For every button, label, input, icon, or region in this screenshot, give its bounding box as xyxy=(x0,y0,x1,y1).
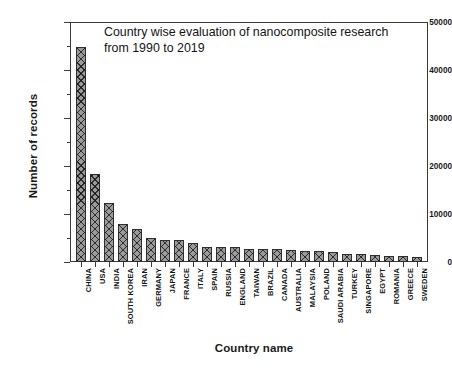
bar xyxy=(132,229,142,262)
x-tick-major xyxy=(319,262,320,267)
bar xyxy=(188,243,198,262)
x-tick-major xyxy=(277,262,278,267)
x-tick-label: AUSTRALIA xyxy=(294,268,303,312)
y-tick-minor xyxy=(67,142,71,143)
y-tick-label: 30000 xyxy=(396,114,452,123)
bar xyxy=(258,249,268,262)
bar xyxy=(118,224,128,262)
y-tick-minor xyxy=(67,94,71,95)
bar xyxy=(216,247,226,262)
bar-chart: Number of records Country wise evaluatio… xyxy=(0,0,452,375)
bar xyxy=(356,254,366,262)
x-tick-label: RUSSIA xyxy=(224,268,233,297)
bar xyxy=(76,47,86,262)
x-tick-label: POLAND xyxy=(322,268,331,300)
x-tick-label: BRAZIL xyxy=(266,268,275,296)
x-tick-major xyxy=(109,262,110,267)
x-tick-label: FRANCE xyxy=(182,268,191,300)
x-tick-label: GREECE xyxy=(406,268,415,300)
x-tick-label: SPAIN xyxy=(210,268,219,291)
bar xyxy=(412,257,422,262)
x-tick-major xyxy=(165,262,166,267)
y-tick-major xyxy=(64,166,70,167)
x-tick-label: SWEDEN xyxy=(420,268,429,301)
x-tick-label: JAPAN xyxy=(168,268,177,293)
x-tick-label: USA xyxy=(98,268,107,284)
x-tick-label: CHINA xyxy=(84,268,93,292)
y-tick-label: 40000 xyxy=(396,66,452,75)
x-tick-major xyxy=(249,262,250,267)
bar xyxy=(384,256,394,262)
bar xyxy=(272,249,282,262)
x-tick-major xyxy=(389,262,390,267)
x-tick-label: ROMANIA xyxy=(392,268,401,304)
x-tick-major xyxy=(263,262,264,267)
x-tick-major xyxy=(193,262,194,267)
x-axis-title: Country name xyxy=(78,342,430,354)
y-tick-major xyxy=(64,262,70,263)
bar xyxy=(160,240,170,262)
x-tick-label: SINGAPORE xyxy=(364,268,373,314)
y-tick-major xyxy=(64,70,70,71)
x-tick-major xyxy=(361,262,362,267)
x-tick-major xyxy=(333,262,334,267)
x-tick-label: IRAN xyxy=(140,268,149,287)
bar xyxy=(314,251,324,262)
x-tick-major xyxy=(417,262,418,267)
x-tick-major xyxy=(291,262,292,267)
x-tick-label: ITALY xyxy=(196,268,205,289)
y-tick-minor xyxy=(67,238,71,239)
bar xyxy=(146,238,156,262)
bar xyxy=(300,251,310,262)
bar xyxy=(174,240,184,262)
bar xyxy=(342,254,352,262)
x-tick-label: TAIWAN xyxy=(252,268,261,298)
x-tick-major xyxy=(137,262,138,267)
x-tick-major xyxy=(403,262,404,267)
y-tick-label: 20000 xyxy=(396,162,452,171)
x-tick-major xyxy=(95,262,96,267)
x-tick-label: ENGLAND xyxy=(238,268,247,306)
y-tick-label: 50000 xyxy=(396,18,452,27)
bar xyxy=(244,249,254,262)
y-tick-label: 10000 xyxy=(396,210,452,219)
bar xyxy=(202,247,212,262)
bar xyxy=(104,203,114,262)
y-tick-major xyxy=(64,22,70,23)
bar xyxy=(230,247,240,262)
x-tick-label: SAUDI ARABIA xyxy=(336,268,345,323)
x-tick-label: SOUTH KOREA xyxy=(126,268,135,324)
x-tick-major xyxy=(179,262,180,267)
bar xyxy=(90,174,100,262)
x-tick-label: TURKEY xyxy=(350,268,359,299)
y-axis-title: Number of records xyxy=(27,66,39,226)
y-tick-major xyxy=(64,118,70,119)
bar xyxy=(328,252,338,262)
x-tick-major xyxy=(235,262,236,267)
y-tick-minor xyxy=(67,46,71,47)
bar xyxy=(398,256,408,262)
y-tick-minor xyxy=(67,190,71,191)
bar xyxy=(286,250,296,262)
x-tick-label: CANADA xyxy=(280,268,289,301)
y-tick-major xyxy=(64,214,70,215)
x-tick-label: GERMANY xyxy=(154,268,163,307)
x-tick-label: MALAYSIA xyxy=(308,268,317,307)
x-tick-major xyxy=(305,262,306,267)
x-tick-major xyxy=(347,262,348,267)
chart-title: Country wise evaluation of nanocomposite… xyxy=(104,25,424,56)
x-tick-major xyxy=(151,262,152,267)
x-tick-label: INDIA xyxy=(112,268,121,289)
x-tick-major xyxy=(221,262,222,267)
x-tick-label: EGYPT xyxy=(378,268,387,294)
x-tick-major xyxy=(81,262,82,267)
bar xyxy=(370,255,380,262)
x-tick-major xyxy=(375,262,376,267)
x-tick-major xyxy=(207,262,208,267)
x-tick-major xyxy=(123,262,124,267)
